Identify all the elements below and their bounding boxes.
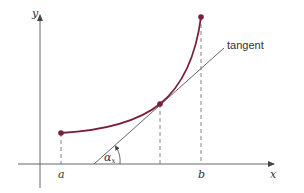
tick-label-a: a — [58, 168, 65, 181]
angle-subscript: x — [111, 157, 115, 165]
point-a — [58, 130, 64, 136]
point-b — [198, 14, 204, 20]
angle-arc-icon — [116, 147, 120, 164]
point-tangent — [157, 101, 163, 107]
tangent-label: tangent — [227, 39, 264, 51]
tick-label-b: b — [198, 168, 205, 181]
angle-label: αx — [104, 151, 115, 165]
function-curve — [61, 17, 201, 133]
y-axis-label: y — [31, 7, 39, 20]
diagram-canvas: y x a b tangent αx — [0, 0, 304, 193]
x-axis-label: x — [270, 168, 277, 181]
